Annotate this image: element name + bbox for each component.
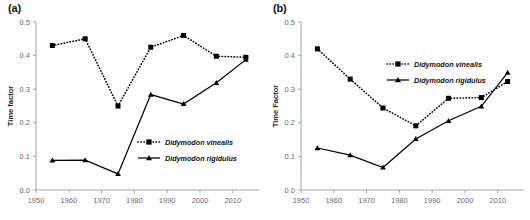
data-point-square xyxy=(50,43,55,48)
y-tick-label: 0.5 xyxy=(285,18,295,27)
panel-a: (a) 0.00.10.20.30.40.5195019601970198019… xyxy=(0,0,265,220)
data-point-square xyxy=(446,96,451,101)
x-tick-label: 1950 xyxy=(293,196,310,205)
data-point-triangle xyxy=(413,136,419,141)
x-tick-label: 1970 xyxy=(93,196,110,205)
y-axis-title: Time factor xyxy=(6,86,15,126)
y-tick-label: 0.1 xyxy=(285,152,295,161)
data-point-triangle xyxy=(148,92,154,97)
data-point-square xyxy=(380,106,385,111)
legend-label: Didymodon rigidulus xyxy=(414,76,486,85)
y-tick-label: 0.2 xyxy=(20,118,30,127)
panel-b: (b) 0.00.10.20.30.40.5195019601970198019… xyxy=(265,0,530,220)
data-point-square xyxy=(315,46,320,51)
y-tick-label: 0.2 xyxy=(285,118,295,127)
data-point-square xyxy=(413,123,418,128)
y-tick-label: 0.0 xyxy=(20,186,30,195)
y-tick-label: 0.5 xyxy=(20,18,30,27)
data-point-square xyxy=(214,54,219,59)
data-point-square xyxy=(181,33,186,38)
x-tick-label: 1990 xyxy=(159,196,176,205)
x-tick-label: 2000 xyxy=(192,196,209,205)
x-tick-label: 1970 xyxy=(358,196,375,205)
panel-a-plot: 0.00.10.20.30.40.51950196019701980199020… xyxy=(0,0,265,220)
x-tick-label: 1950 xyxy=(28,196,45,205)
x-tick-label: 1960 xyxy=(60,196,77,205)
data-point-square xyxy=(148,45,153,50)
data-point-square xyxy=(348,77,353,82)
legend-entry-1: Didymodon vinealis xyxy=(138,138,233,147)
legend-label: Didymodon rigidulus xyxy=(165,154,237,163)
y-tick-label: 0.3 xyxy=(20,85,30,94)
legend-entry-1: Didymodon vinealis xyxy=(387,60,482,69)
panel-b-plot: 0.00.10.20.30.40.51950196019701980199020… xyxy=(265,0,530,220)
legend-entry-2: Didymodon rigidulus xyxy=(387,76,486,85)
data-point-triangle xyxy=(505,70,511,75)
data-point-square xyxy=(479,95,484,100)
data-point-square xyxy=(83,36,88,41)
data-point-triangle xyxy=(315,145,321,150)
x-tick-label: 1990 xyxy=(424,196,441,205)
x-tick-label: 1980 xyxy=(126,196,143,205)
legend-marker-square xyxy=(395,61,400,66)
y-tick-label: 0.1 xyxy=(20,152,30,161)
data-point-square xyxy=(115,104,120,109)
x-tick-label: 2010 xyxy=(489,196,506,205)
legend-marker-square xyxy=(146,139,151,144)
series-line-2 xyxy=(317,73,507,168)
legend-label: Didymodon vinealis xyxy=(414,60,482,69)
y-tick-label: 0.4 xyxy=(285,51,295,60)
x-tick-label: 2010 xyxy=(224,196,241,205)
x-tick-label: 1980 xyxy=(391,196,408,205)
y-tick-label: 0.3 xyxy=(285,85,295,94)
x-tick-label: 1960 xyxy=(325,196,342,205)
x-tick-label: 2000 xyxy=(457,196,474,205)
legend-label: Didymodon vinealis xyxy=(165,138,233,147)
y-tick-label: 0.4 xyxy=(20,51,30,60)
data-point-square xyxy=(505,79,510,84)
y-axis-title: Time Factor xyxy=(271,85,280,127)
legend-entry-2: Didymodon rigidulus xyxy=(138,154,237,163)
two-panel-line-chart-figure: (a) 0.00.10.20.30.40.5195019601970198019… xyxy=(0,0,530,220)
y-tick-label: 0.0 xyxy=(285,186,295,195)
